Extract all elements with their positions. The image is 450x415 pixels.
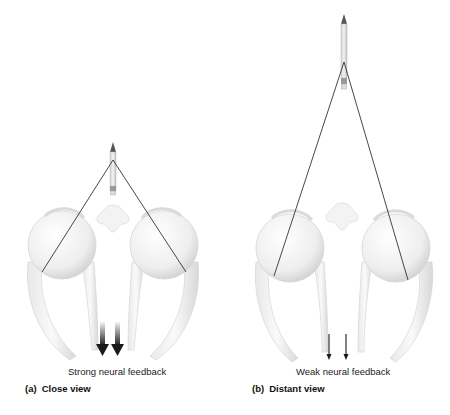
nose-shape [97,205,129,232]
pencil-icon [110,142,116,195]
right-eyeball [362,214,430,282]
panel-title-a: Close view [42,383,91,394]
feedback-arrow-2 [344,334,349,360]
panel-letter-b: (b) [252,383,264,394]
feedback-arrow-2 [111,322,124,356]
panel-title-b: Distant view [269,383,324,394]
left-eyeball [256,214,324,282]
nose-shape [326,203,358,230]
figure-canvas [0,0,450,415]
feedback-caption-a: Strong neural feedback [68,366,166,377]
pencil-icon [341,14,347,89]
panel-b-distant-view [255,14,432,362]
panel-a-close-view [27,142,198,360]
feedback-caption-b: Weak neural feedback [296,366,390,377]
panel-label-a: (a)Close view [25,383,91,394]
weak-feedback-arrows [327,334,349,360]
left-eyeball [28,211,96,279]
strong-feedback-arrows [96,322,124,356]
panel-label-b: (b)Distant view [252,383,325,394]
panel-letter-a: (a) [25,383,37,394]
right-eyeball [130,211,198,279]
